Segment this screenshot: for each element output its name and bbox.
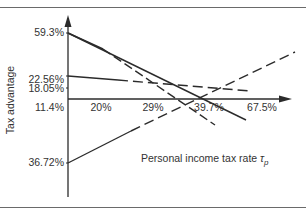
x-tick-label: 29%: [142, 101, 163, 113]
y-tick-label: 18.05%: [28, 82, 64, 94]
x-tick-label: 39.7%: [194, 101, 224, 113]
x-tick-label: 67.5%: [247, 101, 277, 113]
y-tick-label: 11.4%: [35, 101, 64, 113]
y-tick-label: 59.3%: [34, 26, 64, 38]
y-tick-label: 36.72%: [28, 156, 64, 168]
y-axis-title: Tax advantage: [4, 66, 16, 134]
x-axis-title-text: Personal income tax rate: [141, 152, 260, 164]
y-axis: [65, 15, 72, 197]
x-tick-label: 20%: [90, 101, 111, 113]
tau-subscript: p: [264, 158, 268, 167]
x-axis-title: Personal income tax rate τp: [141, 152, 268, 167]
